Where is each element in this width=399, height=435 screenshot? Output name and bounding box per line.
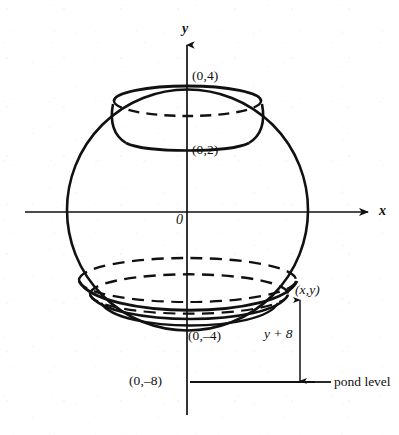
- x-axis-label: x: [379, 204, 386, 218]
- figure-root: y x 0 (0,4) (0,2) (0,–4) (0,–8) (x,y) y …: [0, 0, 399, 435]
- axis-lines: [25, 45, 368, 415]
- buoy-cross-section-diagram: [0, 0, 399, 435]
- label-bottom-point: (0,–4): [188, 329, 221, 343]
- label-pond-point: (0,–8): [129, 374, 162, 388]
- origin-label: 0: [176, 213, 183, 227]
- label-dimension-y-plus-8: y + 8: [264, 327, 293, 341]
- label-inner-point: (0,2): [192, 143, 218, 157]
- label-pond-level: pond level: [334, 375, 391, 389]
- waterline-lower-back-dashed: [90, 274, 288, 294]
- y-axis-label: y: [182, 22, 188, 36]
- label-top-point: (0,4): [192, 69, 218, 83]
- label-surface-point: (x,y): [295, 283, 320, 297]
